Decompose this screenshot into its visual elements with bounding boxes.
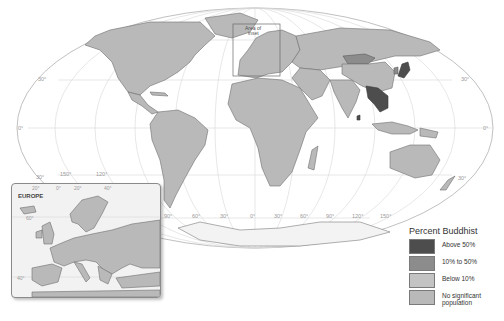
svg-text:0°: 0° [250,213,255,219]
korea [394,67,398,74]
lat-label-left-30s: 30° [36,174,44,180]
svg-text:90°: 90° [326,213,334,219]
legend-item-above-50: Above 50% [409,239,504,254]
svg-text:40°: 40° [17,275,25,281]
legend: Percent Buddhist Above 50% 10% to 50% Be… [409,226,504,307]
legend-swatch [409,290,435,305]
svg-text:30°: 30° [220,213,228,219]
svg-text:20°: 20° [32,185,40,191]
legend-item-10-to-50: 10% to 50% [409,256,504,271]
lat-label-right-0: 0° [483,125,488,131]
turkey [116,272,160,288]
svg-text:40°: 40° [104,185,112,191]
mainland-europe [50,220,160,274]
svg-text:20°: 20° [74,185,82,191]
svg-text:0°: 0° [56,185,61,191]
svg-text:60°: 60° [300,213,308,219]
svg-text:150°: 150° [380,213,391,219]
lat-label-right-30s: 30° [458,175,466,181]
legend-item-no-significant: No significant population [409,290,504,305]
legend-swatch [409,239,435,254]
legend-item-below-10: Below 10% [409,273,504,288]
svg-text:inset: inset [248,30,259,36]
lat-label-left-30n: 30° [38,76,46,82]
lon-label-120: 120° [96,171,107,177]
svg-text:120°: 120° [352,213,363,219]
lat-label-right-30n: 30° [461,76,469,82]
svg-text:60°: 60° [192,213,200,219]
inset-title: EUROPE [18,193,43,199]
italy [74,262,90,282]
sri-lanka [357,115,360,120]
lon-label-150: 150° [60,171,71,177]
legend-swatch [409,273,435,288]
north-africa [32,290,160,297]
uk [42,222,54,244]
svg-text:30°: 30° [274,213,282,219]
legend-swatch [409,256,435,271]
lat-label-left-0: 0° [18,125,23,131]
svg-text:60°: 60° [26,215,34,221]
svg-text:90°: 90° [164,213,172,219]
scandinavia [70,196,108,232]
iberia [32,264,62,286]
legend-title: Percent Buddhist [409,226,504,236]
iceland [20,206,36,214]
europe-inset: 20° 0° 20° 40° 60° 40° EUROPE [11,183,161,298]
ireland [36,230,42,238]
